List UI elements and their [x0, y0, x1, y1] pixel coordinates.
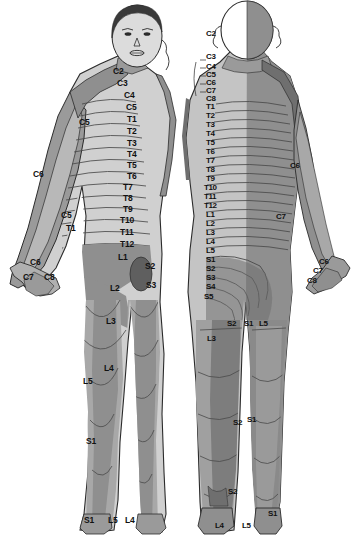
dermatome-label-anterior-t7-12: T7 [123, 183, 133, 192]
dermatome-label-posterior-l5-23: L5 [206, 247, 215, 255]
dermatome-label-posterior-t3-9: T3 [206, 121, 215, 129]
dermatome-label-posterior-l5-36: L5 [259, 320, 268, 328]
dermatome-label-anterior-l5-29: L5 [83, 377, 93, 386]
dermatome-label-posterior-t10-16: T10 [204, 184, 217, 192]
dermatome-label-anterior-l4-33: L4 [125, 516, 135, 525]
dermatome-label-posterior-t7-13: T7 [206, 157, 215, 165]
dermatome-label-posterior-c3-1: C3 [206, 53, 215, 61]
dermatome-label-anterior-s3-25: S3 [146, 281, 156, 290]
dermatome-label-posterior-l3-37: L3 [207, 335, 216, 343]
dermatome-label-anterior-c5-3: C5 [126, 103, 136, 112]
dermatome-label-anterior-t1-17: T1 [66, 224, 76, 233]
dermatome-label-posterior-s1-39: S1 [247, 416, 256, 424]
dermatome-label-anterior-t1-5: T1 [127, 115, 137, 124]
dermatome-label-posterior-t4-10: T4 [206, 130, 215, 138]
dermatome-label-anterior-l4-28: L4 [104, 364, 114, 373]
dermatome-label-posterior-c7-30: C7 [276, 213, 285, 221]
dermatome-label-posterior-l2-20: L2 [206, 220, 215, 228]
dermatome-label-posterior-l4-42: L4 [215, 522, 224, 530]
dermatome-label-anterior-t12-19: T12 [120, 240, 134, 249]
dermatome-label-anterior-c6-20: C6 [30, 258, 40, 267]
dermatome-label-anterior-t8-13: T8 [123, 194, 133, 203]
dermatome-label-anterior-l5-32: L5 [108, 516, 118, 525]
dermatome-label-posterior-c6-29: C6 [290, 162, 299, 170]
dermatome-label-posterior-l5-43: L5 [242, 522, 251, 530]
dermatome-label-posterior-c7-32: C7 [313, 267, 322, 275]
dermatome-chart: C2C3C4C5C5T1T2T3T4T5T6C6T7T8T9C5T10T1T11… [0, 0, 355, 537]
dermatome-label-anterior-t10-16: T10 [120, 216, 134, 225]
dermatome-illustration [0, 0, 355, 537]
dermatome-label-anterior-t2-6: T2 [127, 127, 137, 136]
dermatome-label-anterior-t9-14: T9 [123, 205, 133, 214]
dermatome-label-posterior-l1-19: L1 [206, 211, 215, 219]
dermatome-label-posterior-c6-31: C6 [319, 258, 328, 266]
dermatome-label-posterior-t8-14: T8 [206, 166, 215, 174]
dermatome-label-posterior-t12-18: T12 [204, 202, 217, 210]
dermatome-label-anterior-t4-8: T4 [127, 150, 137, 159]
dermatome-label-anterior-c4-2: C4 [124, 91, 134, 100]
dermatome-label-posterior-t9-15: T9 [206, 175, 215, 183]
dermatome-label-anterior-t11-18: T11 [120, 228, 134, 237]
dermatome-label-posterior-s2-34: S2 [227, 320, 236, 328]
dermatome-label-anterior-s2-22: S2 [145, 262, 155, 271]
posterior-head-dark-half [247, 1, 273, 59]
dermatome-label-posterior-t6-12: T6 [206, 148, 215, 156]
anterior-right-foot [136, 514, 166, 534]
dermatome-label-posterior-s3-26: S3 [206, 274, 215, 282]
dermatome-label-anterior-l3-27: L3 [106, 317, 116, 326]
dermatome-label-anterior-t6-10: T6 [127, 172, 137, 181]
dermatome-label-posterior-s2-38: S2 [233, 419, 242, 427]
dermatome-label-anterior-c5-4: C5 [79, 118, 89, 127]
dermatome-label-anterior-c3-1: C3 [117, 79, 127, 88]
posterior-right-ear [273, 26, 281, 48]
dermatome-label-anterior-c2-0: C2 [113, 67, 123, 76]
dermatome-label-posterior-s2-25: S2 [206, 265, 215, 273]
dermatome-label-anterior-t3-7: T3 [127, 139, 137, 148]
dermatome-label-anterior-c8-24: C8 [44, 273, 54, 282]
dermatome-label-posterior-t2-8: T2 [206, 112, 215, 120]
dermatome-label-posterior-l4-22: L4 [206, 238, 215, 246]
dermatome-label-anterior-l2-26: L2 [110, 284, 120, 293]
dermatome-label-posterior-l3-21: L3 [206, 229, 215, 237]
dermatome-label-anterior-c5-15: C5 [61, 211, 71, 220]
dermatome-label-posterior-s1-24: S1 [206, 256, 215, 264]
dermatome-label-posterior-c8-33: C8 [307, 277, 316, 285]
dermatome-label-anterior-l1-21: L1 [118, 253, 128, 262]
dermatome-label-posterior-c2-0: C2 [206, 30, 215, 38]
dermatome-label-posterior-t11-17: T11 [204, 193, 216, 201]
dermatome-label-anterior-c6-11: C6 [33, 170, 43, 179]
dermatome-label-anterior-t5-9: T5 [127, 161, 137, 170]
dermatome-label-posterior-s1-41: S1 [268, 510, 277, 518]
anterior-neck-line [162, 40, 169, 70]
dermatome-label-anterior-s1-31: S1 [84, 516, 94, 525]
dermatome-label-posterior-s5-28: S5 [204, 293, 213, 301]
dermatome-label-posterior-t1-7: T1 [206, 103, 215, 111]
dermatome-label-posterior-s1-35: S1 [244, 320, 253, 328]
dermatome-label-posterior-s4-27: S4 [206, 283, 215, 291]
dermatome-label-anterior-s1-30: S1 [86, 437, 96, 446]
dermatome-label-anterior-c7-23: C7 [23, 273, 33, 282]
dermatome-label-posterior-t5-11: T5 [206, 139, 215, 147]
dermatome-label-posterior-s2-40: S2 [228, 488, 237, 496]
